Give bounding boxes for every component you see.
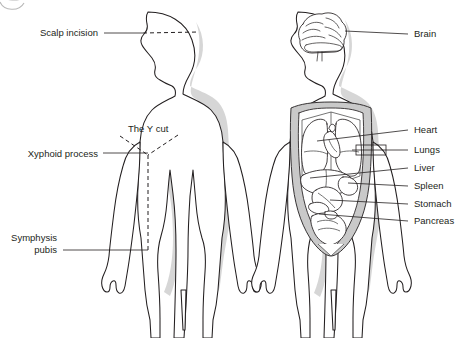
label-heart: Heart: [414, 124, 438, 135]
label-pancreas: Pancreas: [414, 215, 454, 226]
label-liver: Liver: [414, 162, 435, 173]
label-pubis: pubis: [34, 244, 57, 255]
label-scalp-incision: Scalp incision: [40, 27, 98, 38]
label-xyphoid-process: Xyphoid process: [28, 148, 98, 159]
anatomy-diagram: Scalp incision The Y cut Xyphoid process…: [0, 0, 462, 338]
label-spleen: Spleen: [414, 180, 444, 191]
diagram-canvas: Scalp incision The Y cut Xyphoid process…: [0, 0, 462, 338]
label-the-y-cut: The Y cut: [128, 123, 169, 134]
label-brain: Brain: [414, 28, 436, 39]
label-stomach: Stomach: [414, 198, 452, 209]
label-lungs: Lungs: [414, 144, 440, 155]
label-symphysis: Symphysis: [11, 232, 57, 243]
